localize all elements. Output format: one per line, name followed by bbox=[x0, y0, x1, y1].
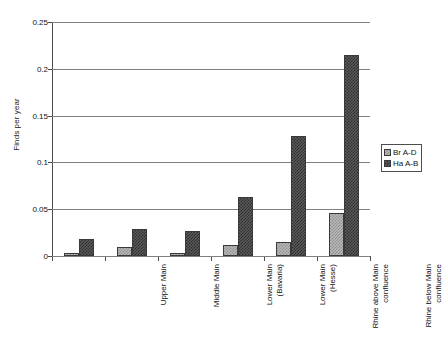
legend-item[interactable]: Ha A-B bbox=[384, 158, 418, 169]
x-tick-mark bbox=[317, 257, 318, 261]
bar-group bbox=[64, 22, 94, 256]
bars-layer bbox=[52, 22, 370, 256]
x-tick-label: Rhine above Main confluence bbox=[371, 264, 390, 346]
y-tick-label: 0.1 bbox=[8, 158, 48, 167]
bar[interactable] bbox=[223, 245, 238, 256]
legend-swatch-icon bbox=[384, 160, 391, 167]
bar[interactable] bbox=[344, 55, 359, 256]
legend-swatch-icon bbox=[384, 149, 391, 156]
x-tick-mark bbox=[264, 257, 265, 261]
x-tick-mark bbox=[105, 257, 106, 261]
legend-label: Ha A-B bbox=[393, 159, 418, 168]
bar[interactable] bbox=[64, 253, 79, 256]
bar[interactable] bbox=[79, 239, 94, 256]
bar[interactable] bbox=[291, 136, 306, 256]
y-tick-label: 0.05 bbox=[8, 205, 48, 214]
legend: Br A-DHa A-B bbox=[381, 144, 422, 172]
x-tick-mark bbox=[52, 257, 53, 261]
bar[interactable] bbox=[170, 253, 185, 256]
bar[interactable] bbox=[276, 242, 291, 256]
bar[interactable] bbox=[132, 229, 147, 256]
bar-group bbox=[170, 22, 200, 256]
y-tick-label: 0.15 bbox=[8, 112, 48, 121]
bar-group bbox=[223, 22, 253, 256]
x-tick-label: Rhine below Main confluence bbox=[424, 264, 443, 346]
x-tick-mark bbox=[370, 257, 371, 261]
bar[interactable] bbox=[238, 197, 253, 256]
x-tick-label: Lower Main (Bavaria) bbox=[265, 264, 284, 346]
x-tick-label: Upper Main bbox=[159, 264, 169, 346]
bar[interactable] bbox=[117, 247, 132, 256]
bar-group bbox=[329, 22, 359, 256]
y-tick-label: 0 bbox=[8, 252, 48, 261]
bar[interactable] bbox=[329, 213, 344, 256]
bar-group bbox=[276, 22, 306, 256]
y-tick-label: 0.25 bbox=[8, 18, 48, 27]
bar-group bbox=[117, 22, 147, 256]
x-tick-mark bbox=[211, 257, 212, 261]
x-tick-mark bbox=[158, 257, 159, 261]
x-tick-label: Middle Main bbox=[212, 264, 222, 346]
y-tick-label: 0.2 bbox=[8, 65, 48, 74]
legend-item[interactable]: Br A-D bbox=[384, 147, 418, 158]
legend-label: Br A-D bbox=[393, 148, 417, 157]
bar[interactable] bbox=[185, 231, 200, 256]
x-tick-label: Lower Main (Hesse) bbox=[318, 264, 337, 346]
